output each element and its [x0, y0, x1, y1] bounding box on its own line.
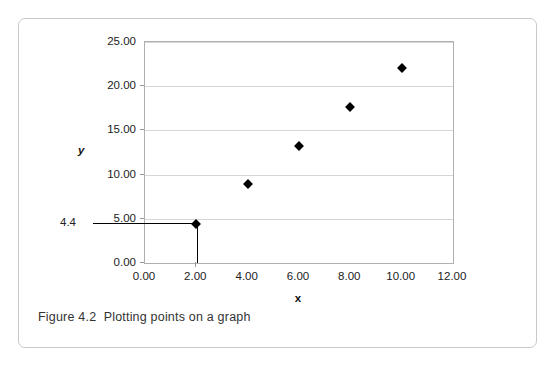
data-point	[243, 179, 253, 189]
x-tick-label: 2.00	[169, 270, 221, 282]
figure-caption: Figure 4.2 Plotting points on a graph	[38, 310, 251, 324]
gridline-20	[145, 86, 453, 87]
x-tick-label: 12.00	[426, 270, 478, 282]
x-tick-label: 0.00	[118, 270, 170, 282]
gridline-5	[145, 219, 453, 220]
annotation-vertical-line	[197, 223, 198, 263]
x-tick-label: 10.00	[375, 270, 427, 282]
y-tick-mark	[140, 218, 144, 219]
x-tick-label: 4.00	[221, 270, 273, 282]
data-point	[397, 63, 407, 73]
annotation-value-label: 4.4	[60, 216, 76, 228]
y-tick-label: 10.00	[92, 168, 136, 180]
x-tick-label: 8.00	[323, 270, 375, 282]
annotation-horizontal-line	[93, 223, 198, 224]
x-axis-ticks: 0.00 2.00 4.00 6.00 8.00 10.00 12.00	[144, 270, 452, 288]
y-tick-mark	[140, 174, 144, 175]
y-tick-label: 0.00	[92, 256, 136, 268]
x-tick-label: 6.00	[272, 270, 324, 282]
y-tick-label: 15.00	[92, 123, 136, 135]
y-tick-mark	[140, 85, 144, 86]
data-point	[294, 141, 304, 151]
y-tick-label: 25.00	[92, 35, 136, 47]
y-tick-mark	[140, 129, 144, 130]
y-tick-label: 20.00	[92, 79, 136, 91]
gridline-10	[145, 175, 453, 176]
data-point	[345, 102, 355, 112]
gridline-25	[145, 42, 453, 43]
gridline-15	[145, 130, 453, 131]
plot-area	[144, 41, 454, 264]
y-tick-mark	[140, 262, 144, 263]
y-axis-title: y	[78, 144, 84, 156]
x-axis-title: x	[144, 292, 452, 304]
y-axis-ticks: 25.00 20.00 15.00 10.00 5.00 0.00	[92, 41, 136, 262]
